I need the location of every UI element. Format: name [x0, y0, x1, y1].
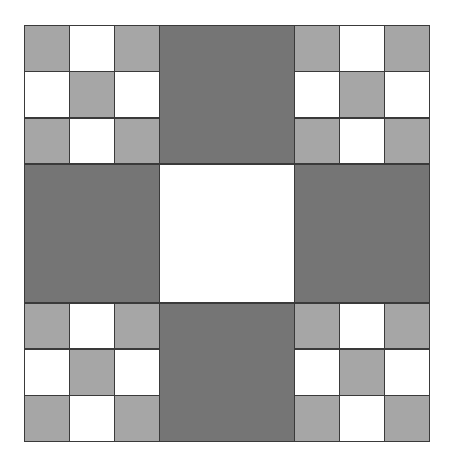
carpet-cell: [295, 304, 339, 349]
carpet-cell: [70, 119, 114, 164]
carpet-cell: [115, 350, 159, 395]
carpet-cell: [340, 304, 384, 349]
carpet-cell: [340, 350, 384, 395]
carpet-block-middle-left: [25, 165, 159, 302]
sierpinski-carpet-figure: [24, 25, 430, 442]
carpet-cell: [295, 72, 339, 117]
carpet-cell: [115, 304, 159, 349]
carpet-cell: [385, 350, 429, 395]
figure-canvas: [0, 0, 454, 458]
carpet-cell: [70, 72, 114, 117]
carpet-cell: [115, 72, 159, 117]
carpet-cell: [70, 396, 114, 441]
carpet-cell: [295, 396, 339, 441]
carpet-cell: [295, 350, 339, 395]
carpet-cell: [25, 119, 69, 164]
carpet-cell: [25, 72, 69, 117]
carpet-cell: [385, 26, 429, 71]
carpet-cell: [340, 26, 384, 71]
carpet-cell: [340, 396, 384, 441]
carpet-cell: [340, 119, 384, 164]
carpet-cell: [295, 119, 339, 164]
carpet-cell: [25, 304, 69, 349]
carpet-cell: [295, 26, 339, 71]
carpet-cell: [70, 350, 114, 395]
carpet-cell: [385, 72, 429, 117]
carpet-cell: [115, 119, 159, 164]
carpet-cell: [70, 304, 114, 349]
carpet-cell: [385, 304, 429, 349]
carpet-block-top-right: [295, 26, 429, 163]
carpet-cell: [340, 72, 384, 117]
carpet-cell: [115, 396, 159, 441]
carpet-block-top-center: [160, 26, 294, 163]
carpet-block-top-left: [25, 26, 159, 163]
carpet-block-middle-center: [160, 165, 294, 302]
carpet-block-bottom-right: [295, 304, 429, 441]
carpet-cell: [385, 396, 429, 441]
carpet-cell: [70, 26, 114, 71]
carpet-block-bottom-center: [160, 304, 294, 441]
carpet-block-middle-right: [295, 165, 429, 302]
carpet-cell: [25, 350, 69, 395]
carpet-cell: [385, 119, 429, 164]
carpet-block-bottom-left: [25, 304, 159, 441]
carpet-cell: [25, 26, 69, 71]
carpet-cell: [115, 26, 159, 71]
carpet-cell: [25, 396, 69, 441]
